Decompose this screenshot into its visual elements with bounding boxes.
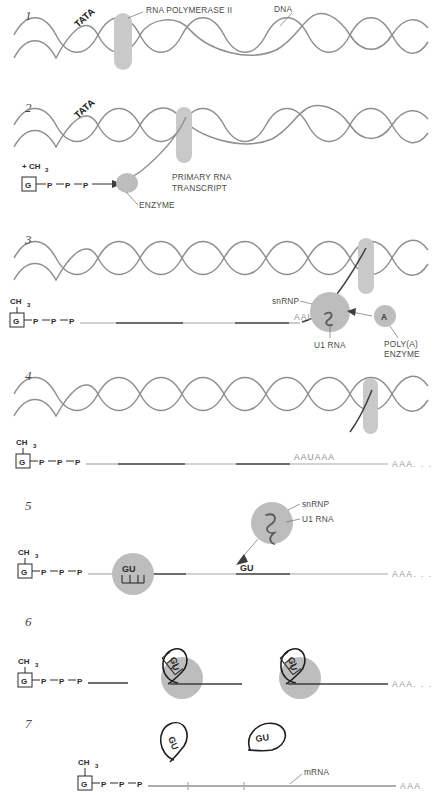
methyl-group: + CH 3 — [22, 162, 49, 173]
released-lariat-left: GU — [161, 723, 188, 762]
panel-4: 4 CH 3 G P P P AAUAAA AAA. . . — [0, 362, 436, 480]
methyl-group: CH 3 — [10, 297, 31, 313]
panel-6-ch3-subscript: 3 — [35, 662, 39, 668]
panel-3-cap-g: G — [13, 317, 19, 326]
panel-7-polya-tail: AAA — [400, 781, 421, 791]
panel-4-aauaaa-label: AAUAAA — [294, 452, 335, 462]
panel-5-gu-bound-label: GU — [122, 564, 136, 574]
panel-7-ch3-subscript: 3 — [95, 763, 99, 769]
panel-2-number: 2 — [25, 100, 32, 116]
panel-4-ch3-subscript: 3 — [33, 443, 37, 449]
panel-5-graphic: snRNP U1 RNA CH 3 G P P P GU — [0, 482, 436, 594]
panel-4-cap-p1: P — [39, 458, 45, 467]
dna-leader-line — [280, 13, 292, 26]
panel-2-enzyme-label: ENZYME — [139, 200, 175, 210]
panel-2-cap-p2: P — [65, 181, 71, 190]
panel-2-cap-p3: P — [83, 181, 89, 190]
lariat-right: GU — [279, 649, 388, 699]
panel-2-methyl-label: + CH — [22, 162, 41, 171]
panel-7-mrna-label: mRNA — [304, 767, 329, 777]
rna-polymerase-capsule — [114, 13, 132, 70]
panel-3-graphic: CH 3 G P P P AAUAAA snRNP U1 RNA A — [0, 228, 436, 360]
panel-3-snrnp-label: snRNP — [272, 296, 300, 306]
panel-7-cap-p2: P — [119, 780, 125, 789]
panel-3: 3 CH 3 G P P P AAUAAA snRNP — [0, 228, 436, 360]
panel-1-number: 1 — [25, 8, 32, 24]
panel-6-cap-p3: P — [77, 677, 83, 686]
panel-5: 5 snRNP U1 RNA CH 3 G P P P G — [0, 482, 436, 594]
panel-6-cap-p2: P — [59, 677, 65, 686]
panel-6-graphic: CH 3 G P P P GU — [0, 600, 436, 700]
panel-3-number: 3 — [25, 232, 32, 248]
panel-3-ch3-subscript: 3 — [27, 302, 31, 308]
panel-2-cap-p1: P — [47, 181, 53, 190]
panel-7-graphic: GU GU CH 3 G P P P mRNA AAA — [0, 702, 436, 795]
cap-structure: G P P P — [78, 776, 143, 790]
panel-4-cap-p2: P — [57, 458, 63, 467]
panel-7-cap-p1: P — [101, 780, 107, 789]
panel-3-ch3: CH — [10, 297, 22, 306]
panel-6-ch3: CH — [18, 657, 30, 666]
panel-5-ch3: CH — [18, 548, 30, 557]
panel-7-number: 7 — [25, 716, 32, 732]
panel-4-ch3: CH — [16, 438, 28, 447]
cap-structure: G P P P — [18, 673, 83, 687]
cap-structure: G P P P — [22, 177, 122, 191]
rna-polymerase-capsule — [358, 238, 374, 294]
panel-4-number: 4 — [25, 368, 32, 384]
panel-3-polya-label-line1: POLY(A) — [384, 339, 418, 349]
cap-structure: G P P P — [18, 564, 83, 578]
panel-7: 7 GU GU CH 3 G P P P mRNA A — [0, 702, 436, 795]
panel-6-cap-g: G — [21, 677, 27, 686]
panel-5-gu-free-label: GU — [240, 563, 254, 573]
panel-5-snrnp-label: snRNP — [302, 499, 330, 509]
panel-6-cap-p1: P — [41, 677, 47, 686]
panel-3-polya-label-line2: ENZYME — [384, 349, 420, 359]
methyl-group: CH 3 — [18, 657, 39, 673]
panel-5-cap-p1: P — [41, 568, 47, 577]
panel-2-methyl-subscript: 3 — [45, 167, 49, 173]
snrnp-leader-line — [288, 504, 300, 510]
lariat-left: GU — [161, 649, 242, 699]
released-lariat-right: GU — [248, 723, 285, 751]
panel-1-polymerase-label: RNA POLYMERASE II — [146, 5, 232, 15]
panel-6: 6 CH 3 G P P P — [0, 600, 436, 700]
methyl-group: CH 3 — [18, 548, 39, 564]
panel-4-cap-g: G — [19, 458, 25, 467]
panel-5-cap-p2: P — [59, 568, 65, 577]
panel-2-transcript-label-line1: PRIMARY RNA — [172, 172, 232, 182]
capping-enzyme-blob — [116, 173, 138, 193]
panel-2-graphic: TATA + CH 3 G P P P ENZYME PRIMARY RNA T… — [0, 95, 436, 225]
methyl-group: CH 3 — [78, 758, 99, 776]
panel-5-u1rna-label: U1 RNA — [302, 514, 334, 524]
panel-2-cap-g: G — [25, 181, 31, 190]
panel-1-dna-label: DNA — [274, 4, 292, 14]
panel-5-cap-p3: P — [77, 568, 83, 577]
panel-5-polya-tail: AAA. . . — [392, 569, 432, 579]
panel-4-polya-tail: AAA. . . — [392, 459, 432, 469]
methyl-group: CH 3 — [16, 438, 37, 454]
panel-7-cap-g: G — [81, 780, 87, 789]
panel-7-cap-p3: P — [137, 780, 143, 789]
panel-3-cap-p2: P — [51, 317, 57, 326]
panel-5-number: 5 — [25, 498, 32, 514]
mrna-leader-line — [290, 774, 302, 784]
snrnp-bound-blob — [112, 553, 154, 595]
panel-2-tata-label: TATA — [72, 97, 97, 121]
cap-structure: G P P P — [16, 454, 81, 468]
panel-7-gu-right-label: GU — [255, 732, 270, 744]
rna-polymerase-capsule — [176, 107, 192, 163]
panel-7-gu-left-label: GU — [166, 735, 180, 751]
panel-5-cap-g: G — [21, 568, 27, 577]
panel-3-polya-a: A — [381, 312, 387, 322]
panel-1: 1 TATA RNA POLYMERASE II DNA — [0, 0, 436, 95]
panel-3-u1rna-label: U1 RNA — [314, 340, 346, 350]
panel-6-polya-tail: AAA. . . — [392, 679, 432, 689]
snrnp-leader-line — [300, 301, 312, 304]
panel-3-cap-p1: P — [33, 317, 39, 326]
panel-2-transcript-label-line2: TRANSCRIPT — [172, 183, 227, 193]
panel-1-graphic: TATA RNA POLYMERASE II DNA — [0, 0, 436, 95]
panel-4-cap-p3: P — [75, 458, 81, 467]
panel-5-ch3-subscript: 3 — [35, 553, 39, 559]
panel-7-ch3: CH — [78, 758, 90, 767]
